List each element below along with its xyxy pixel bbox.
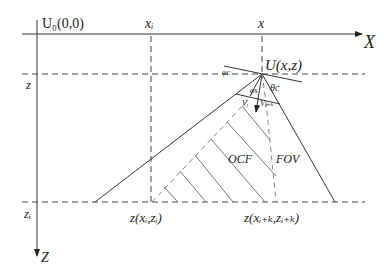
- ocf-fov-diagram: U₀(0,0) X Z xᵢ x z zᵢ U(x,z) φc φs θc Vᵢ…: [0, 0, 390, 276]
- z-label: z: [25, 77, 31, 92]
- x-axis-label: X: [363, 32, 376, 52]
- point-ik-label: z(xᵢ₊ₖ,zᵢ₊ₖ): [243, 210, 299, 225]
- ocf-label: OCF: [228, 152, 253, 166]
- zi-label: zᵢ: [23, 206, 31, 221]
- vi-label: Vᵢ: [242, 99, 248, 108]
- xi-label: xᵢ: [144, 16, 153, 31]
- ocf-hatching: [164, 106, 276, 202]
- fov-right-edge: [262, 74, 335, 202]
- origin-label: U₀(0,0): [42, 16, 84, 32]
- point-i-label: z(xᵢ,zᵢ): [129, 210, 162, 225]
- vik-label: Vᵢ₊ₖ: [260, 99, 273, 108]
- fov-left-edge: [95, 74, 262, 202]
- phi-c-label: φc: [222, 68, 230, 77]
- x-label: x: [257, 16, 265, 31]
- phi-s-label: φs: [250, 86, 258, 95]
- fov-label: FOV: [275, 152, 301, 166]
- camera-label: U(x,z): [265, 57, 302, 74]
- ocf-left-edge: [152, 100, 248, 202]
- theta-c-label: θc: [270, 82, 280, 93]
- ocf-right-edge: [266, 102, 276, 202]
- z-axis-label: Z: [41, 250, 49, 265]
